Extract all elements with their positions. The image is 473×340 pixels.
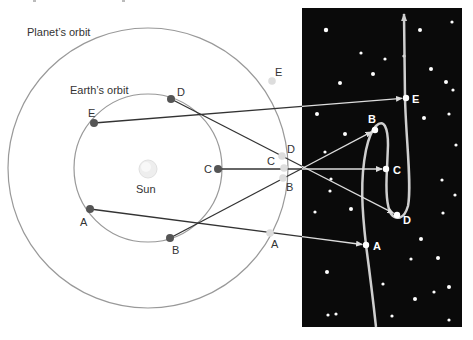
cropped-text-fragment xyxy=(122,0,125,2)
star xyxy=(334,312,337,315)
star xyxy=(432,290,435,293)
star xyxy=(323,150,326,153)
star xyxy=(413,297,417,301)
earth-orbit-label: Earth’s orbit xyxy=(70,84,129,96)
star xyxy=(338,81,342,85)
earth-label-C: C xyxy=(204,163,212,175)
star xyxy=(381,282,384,285)
star xyxy=(315,112,319,116)
star xyxy=(371,72,375,76)
sky-position-C xyxy=(383,166,389,172)
star xyxy=(453,193,456,196)
star xyxy=(324,28,328,32)
star xyxy=(419,237,423,241)
star xyxy=(328,189,331,192)
star xyxy=(450,20,453,23)
sky-position-A xyxy=(363,242,369,248)
sky-label-B: B xyxy=(368,113,376,125)
planet-orbit-label: Planet’s orbit xyxy=(27,26,90,38)
sky-position-B xyxy=(372,127,378,133)
star xyxy=(418,28,422,32)
star xyxy=(313,210,316,213)
sky-position-D xyxy=(394,212,400,218)
planet-positions: ABCDE xyxy=(266,66,295,250)
star xyxy=(325,270,329,274)
star xyxy=(359,51,362,54)
planet-label-B: B xyxy=(286,181,293,193)
sky-label-D: D xyxy=(403,214,411,226)
earth-label-E: E xyxy=(88,107,95,119)
sky-label-E: E xyxy=(412,93,419,105)
star xyxy=(429,67,433,71)
planet-position-A xyxy=(266,229,274,237)
earth-position-A xyxy=(86,205,94,213)
planet-label-C: C xyxy=(267,155,275,167)
earth-position-E xyxy=(90,119,98,127)
star xyxy=(390,314,393,317)
star xyxy=(454,143,457,146)
sun-label: Sun xyxy=(136,183,156,195)
sky-background xyxy=(302,8,462,327)
earth-label-A: A xyxy=(80,216,88,228)
retrograde-motion-diagram: Planet’s orbit Earth’s orbit Sun ABCDE A… xyxy=(0,0,473,340)
sun-highlight xyxy=(141,162,151,172)
planet-position-C xyxy=(280,164,288,172)
star xyxy=(447,285,451,289)
star xyxy=(441,211,444,214)
earth-position-D xyxy=(167,95,175,103)
earth-position-C xyxy=(214,165,222,173)
star xyxy=(343,132,347,136)
sky-label-A: A xyxy=(373,240,381,252)
star xyxy=(436,256,440,260)
planet-position-E xyxy=(268,77,276,85)
star xyxy=(349,207,353,211)
sky-label-C: C xyxy=(393,164,401,176)
star xyxy=(451,88,454,91)
sight-line-E xyxy=(94,106,302,123)
star xyxy=(409,257,412,260)
planet-label-E: E xyxy=(275,66,282,78)
earth-label-B: B xyxy=(172,244,179,256)
cropped-text-fragment xyxy=(33,0,36,2)
planet-label-D: D xyxy=(287,143,295,155)
star xyxy=(447,318,450,321)
earth-label-D: D xyxy=(177,86,185,98)
planet-position-D xyxy=(278,152,286,160)
star xyxy=(444,80,448,84)
sun xyxy=(139,160,157,178)
planet-label-A: A xyxy=(271,238,279,250)
star xyxy=(422,116,426,120)
earth-position-B xyxy=(166,234,174,242)
star xyxy=(447,112,450,115)
sky-position-E xyxy=(403,95,409,101)
star xyxy=(383,57,386,60)
star xyxy=(326,313,329,316)
star xyxy=(440,178,443,181)
